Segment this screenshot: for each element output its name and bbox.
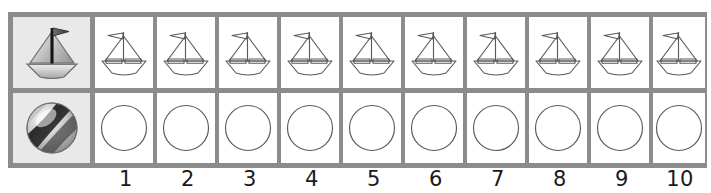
ball-cell[interactable] (157, 93, 219, 164)
circle-outline-icon (284, 102, 336, 154)
ball-row (13, 93, 702, 164)
ball-cell[interactable] (653, 93, 705, 164)
sailboat-cell[interactable] (467, 17, 529, 88)
sailboat-cell[interactable] (653, 17, 705, 88)
sailboat-outline-icon (408, 24, 460, 80)
worksheet-grid (8, 12, 707, 168)
sailboat-outline-icon (653, 24, 705, 80)
sailboat-outline-icon (470, 24, 522, 80)
row-header-ball (13, 93, 95, 164)
row-header-sailboat (13, 17, 95, 88)
ball-cell[interactable] (281, 93, 343, 164)
beach-ball-icon (22, 98, 82, 158)
circle-outline-icon (346, 102, 398, 154)
circle-outline-icon (532, 102, 584, 154)
sailboat-outline-icon (98, 24, 150, 80)
ball-cell[interactable] (467, 93, 529, 164)
ball-cell[interactable] (529, 93, 591, 164)
counting-worksheet: 1 2 3 4 5 6 7 8 9 10 (0, 0, 711, 193)
sailboat-outline-icon (284, 24, 336, 80)
ball-cell[interactable] (343, 93, 405, 164)
circle-outline-icon (98, 102, 150, 154)
column-number-labels: 1 2 3 4 5 6 7 8 9 10 (8, 168, 707, 193)
circle-outline-icon (470, 102, 522, 154)
column-number-3: 3 (219, 168, 281, 191)
column-number-7: 7 (467, 168, 529, 191)
sailboat-outline-icon (532, 24, 584, 80)
ball-cell[interactable] (405, 93, 467, 164)
column-number-9: 9 (591, 168, 653, 191)
column-number-5: 5 (343, 168, 405, 191)
sailboat-cell[interactable] (405, 17, 467, 88)
column-number-1: 1 (95, 168, 157, 191)
column-number-2: 2 (157, 168, 219, 191)
circle-outline-icon (160, 102, 212, 154)
sailboat-cell[interactable] (95, 17, 157, 88)
column-number-8: 8 (529, 168, 591, 191)
sailboat-icon (21, 23, 83, 81)
ball-cell[interactable] (591, 93, 653, 164)
sailboat-outline-icon (594, 24, 646, 80)
sailboat-outline-icon (222, 24, 274, 80)
column-number-6: 6 (405, 168, 467, 191)
circle-outline-icon (653, 102, 705, 154)
sailboat-outline-icon (346, 24, 398, 80)
sailboat-cell[interactable] (281, 17, 343, 88)
sailboat-outline-icon (160, 24, 212, 80)
sailboat-cell[interactable] (219, 17, 281, 88)
column-number-10: 10 (653, 168, 707, 191)
sailboat-row (13, 17, 702, 93)
sailboat-cell[interactable] (591, 17, 653, 88)
sailboat-cell[interactable] (343, 17, 405, 88)
ball-cell[interactable] (219, 93, 281, 164)
circle-outline-icon (408, 102, 460, 154)
column-number-4: 4 (281, 168, 343, 191)
ball-cell[interactable] (95, 93, 157, 164)
circle-outline-icon (594, 102, 646, 154)
sailboat-cell[interactable] (529, 17, 591, 88)
sailboat-cell[interactable] (157, 17, 219, 88)
circle-outline-icon (222, 102, 274, 154)
